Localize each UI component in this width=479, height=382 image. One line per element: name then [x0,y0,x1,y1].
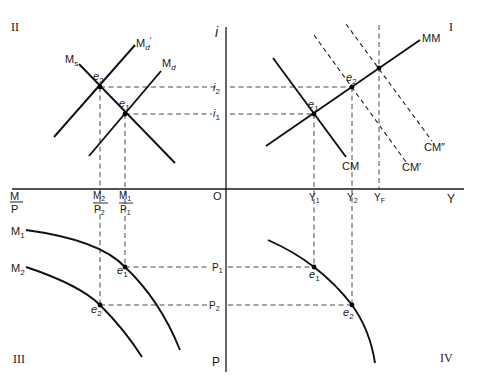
four-quadrant-diagram: II I III IV i P Y O M P Ms Md′ Md e2 e1 … [0,0,479,382]
curve-m1 [26,230,180,350]
curve-m2 [26,267,142,357]
svg-text:M1: M1 [119,190,131,202]
point-e2-q2 [98,85,103,90]
axis-label-real-money: M P [10,190,23,215]
point-e1-q2 [123,112,128,117]
tick-label-yf: YF [374,192,385,204]
quadrant-label-ii: II [11,20,19,34]
svg-text:M: M [10,190,19,202]
tick-label-p2: P2 [209,300,220,312]
curve-mm [266,40,420,146]
svg-text:P: P [11,203,18,215]
label-e2-q4: e2 [343,306,354,321]
label-mm: MM [422,32,440,44]
label-md-prime: Md′ [136,35,152,52]
axis-label-i: i [215,24,219,40]
point-e2-q4 [350,303,355,308]
label-e1-q2: e1 [119,97,130,112]
point-e1-q3 [123,265,128,270]
curve-aggregate-supply [268,240,375,363]
tick-label-i2: i2 [213,81,220,96]
label-cm: CM [342,160,359,172]
svg-text:P1: P1 [120,204,131,216]
label-md: Md [162,57,176,72]
tick-label-p1: P1 [212,262,223,274]
tick-label-i1: i1 [213,107,220,122]
tick-label-y2: Y2 [347,192,358,204]
tick-label-y1: Y1 [309,192,320,204]
label-e2-q1: e2 [346,71,357,86]
label-e1-q1: e1 [308,98,319,113]
label-m2: M2 [11,262,25,277]
label-m1: M1 [11,225,25,240]
label-ms: Ms [65,53,78,68]
quadrant-label-i: I [449,20,453,34]
axis-label-p: P [212,355,220,369]
quadrant-label-iv: IV [440,351,453,365]
tick-label-m2-p2: M2 P2 [93,190,108,216]
tick-label-m1-p1: M1 P1 [119,190,133,216]
quadrant-label-iii: III [13,352,25,366]
axis-label-y: Y [447,192,455,206]
svg-text:M2: M2 [93,190,105,202]
point-e2-q3 [98,303,103,308]
curve-cm-prime [314,35,406,162]
point-full-employment [377,66,382,71]
label-cm-double-prime: CM″ [424,141,445,153]
label-e2-q2: e2 [93,70,104,85]
origin-label: O [213,190,222,202]
label-cm-prime: CM′ [402,161,421,173]
svg-text:P2: P2 [94,204,105,216]
